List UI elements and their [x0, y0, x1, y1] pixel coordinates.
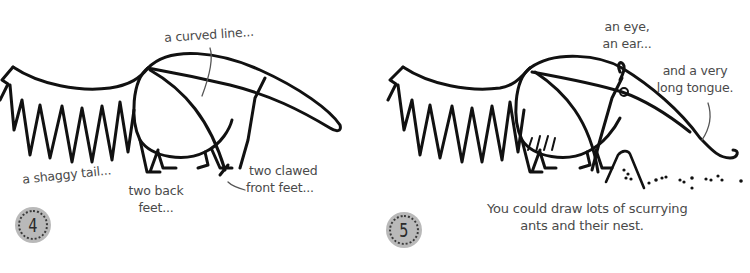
step-5-panel: an eye, an ear... and a very long tongue…	[375, 0, 750, 273]
step-number: 5	[399, 219, 408, 241]
caption: You could draw lots of scurrying ants an…	[487, 200, 677, 234]
step-number: 4	[28, 214, 37, 236]
label-back-feet-line1: two back	[128, 182, 184, 199]
label-front-feet: two clawed front feet...	[246, 162, 318, 196]
label-back-feet-line2: feet...	[128, 199, 184, 216]
label-back-feet: two back feet...	[128, 182, 184, 216]
label-tongue-line2: long tongue.	[655, 79, 735, 96]
step-4-panel: a curved line... a shaggy tail... two ba…	[0, 0, 375, 273]
label-tongue: and a very long tongue.	[655, 62, 735, 96]
label-shaggy-tail: a shaggy tail...	[21, 161, 111, 187]
step-number-badge: 5	[386, 212, 422, 248]
label-curved-line: a curved line...	[164, 23, 255, 46]
step-number-badge: 4	[15, 207, 51, 243]
label-front-feet-line2: front feet...	[246, 179, 318, 196]
label-eye-ear-line2: an ear...	[597, 35, 657, 52]
label-tongue-line1: and a very	[655, 62, 735, 79]
label-eye-ear: an eye, an ear...	[597, 18, 657, 52]
label-eye-ear-line1: an eye,	[597, 18, 657, 35]
caption-line2: ants and their nest.	[487, 217, 677, 234]
label-front-feet-line1: two clawed	[246, 162, 318, 179]
caption-line1: You could draw lots of scurrying	[487, 200, 677, 217]
